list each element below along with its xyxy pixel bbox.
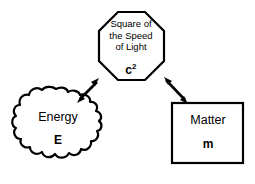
- connector-light-to-matter: [164, 77, 188, 104]
- diagram-graphics: [0, 0, 255, 184]
- blob-shape-energy: [12, 87, 101, 158]
- rectangle-shape-matter: [172, 103, 243, 163]
- diagram-canvas: Square ofthe Speedof Light c2 Energy E M…: [0, 0, 255, 184]
- octagon-shape-speed-of-light: [99, 12, 164, 80]
